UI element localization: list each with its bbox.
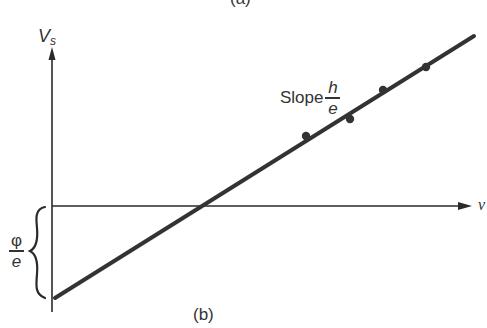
slope-numerator: h	[327, 79, 338, 96]
fit-line	[55, 36, 474, 298]
y-axis-label: Vs	[38, 26, 56, 48]
phi-numerator: φ	[10, 232, 23, 249]
slope-denominator: e	[327, 100, 338, 117]
data-point	[346, 115, 354, 123]
slope-annotation: Slope h e	[280, 79, 340, 117]
data-point	[379, 86, 387, 94]
phi-fraction: φ e	[9, 232, 24, 270]
caption-b: (b)	[193, 305, 214, 325]
plot-area	[0, 0, 487, 328]
x-axis-label: ν	[478, 196, 485, 214]
y-axis-arrow-icon	[49, 47, 56, 60]
slope-fraction: h e	[325, 79, 340, 117]
work-function-annotation: φ e	[7, 232, 24, 270]
figure: (a) Vs ν Slope h e φ e (b)	[0, 0, 487, 328]
phi-denominator: e	[11, 253, 22, 270]
x-axis-arrow-icon	[458, 202, 472, 210]
fit-line-segment	[55, 36, 474, 298]
data-point	[422, 63, 430, 71]
brace-icon	[30, 207, 45, 298]
data-point	[302, 132, 310, 140]
slope-text: Slope	[280, 88, 323, 108]
